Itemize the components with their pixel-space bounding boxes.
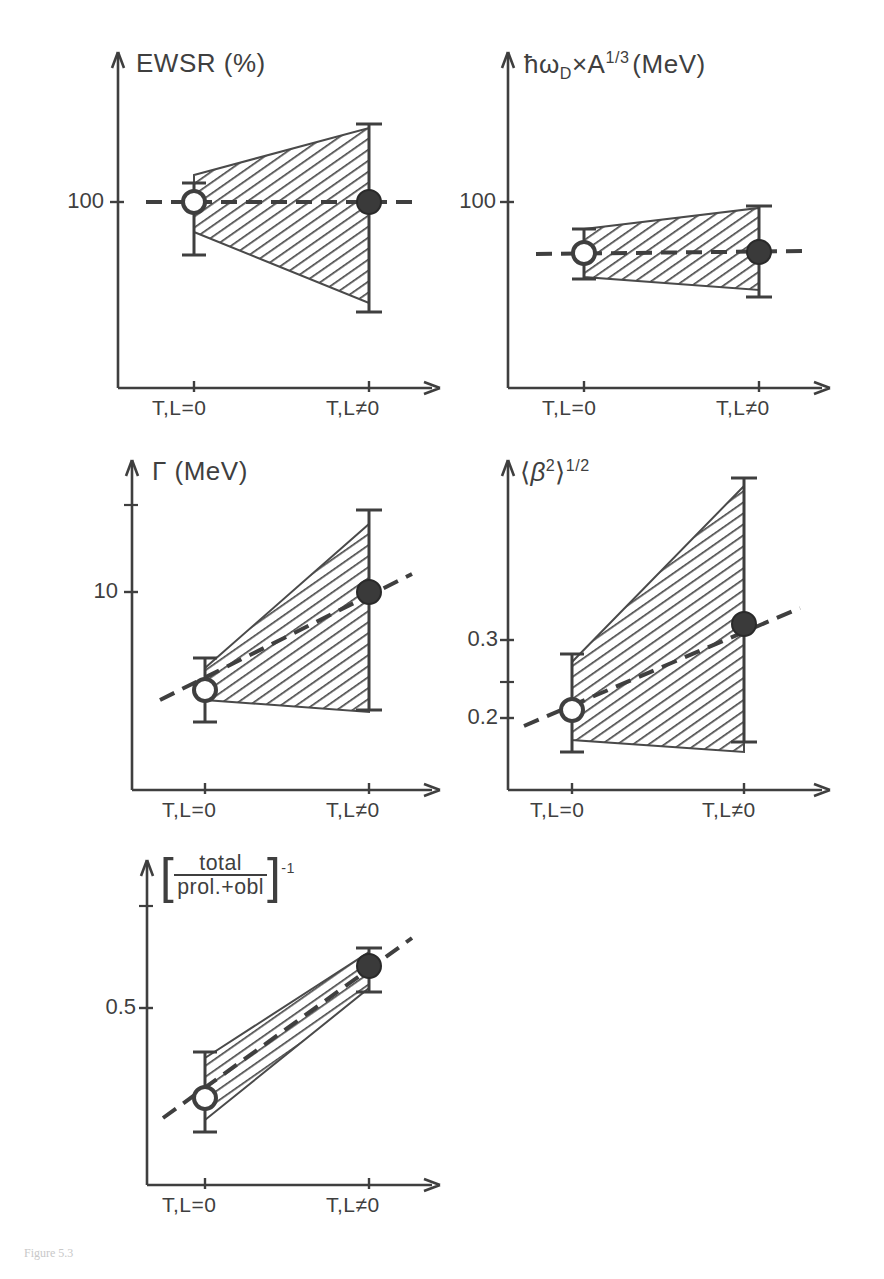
data-point-filled-gamma[interactable] <box>357 580 381 604</box>
uncertainty-band-hw <box>584 208 759 290</box>
bracket-open: [ <box>160 856 174 896</box>
y-tick-label-gamma-10: 10 <box>58 578 118 604</box>
panel-beta2 <box>500 460 830 796</box>
unit-mev: (MeV) <box>632 49 705 79</box>
x-tick-label-beta2-left: T,L=0 <box>530 798 584 822</box>
data-point-filled-ewsr[interactable] <box>357 190 381 214</box>
uncertainty-band-beta2 <box>572 486 744 752</box>
exponent-one-half: 1/2 <box>566 456 590 474</box>
panel-ewsr <box>110 52 440 394</box>
figure-caption: Figure 5.3 <box>24 1246 73 1261</box>
data-point-open-ewsr[interactable] <box>183 191 205 213</box>
beta-symbol: β <box>531 457 546 487</box>
x-tick-label-hw-right: T,L≠0 <box>716 396 770 420</box>
hbar-symbol: ħ <box>524 49 539 79</box>
data-point-open-beta2[interactable] <box>561 699 583 721</box>
y-tick-label-beta2-03: 0.3 <box>432 626 498 652</box>
x-tick-label-tpo-right: T,L≠0 <box>326 1193 380 1217</box>
data-point-open-tpo[interactable] <box>194 1087 216 1109</box>
figure-container: EWSR (%) 100 100 T,L=0 T,L≠0 ħωD×A1/3(Me… <box>0 0 884 1279</box>
x-tick-label-gamma-right: T,L≠0 <box>326 798 380 822</box>
uncertainty-band-ewsr <box>194 128 369 303</box>
uncertainty-band-gamma <box>205 524 369 712</box>
angle-bracket-close: ⟩ <box>555 457 566 487</box>
ratio-fraction: totalprol.+obl <box>174 852 267 899</box>
data-point-filled-hw[interactable] <box>747 240 771 264</box>
axis-label-total-prol-obl: [totalprol.+obl]-1 <box>160 852 295 899</box>
bracket-close: ] <box>267 856 281 896</box>
x-tick-label-hw-left: T,L=0 <box>542 396 596 420</box>
panel-gamma <box>124 460 440 796</box>
mass-number-A: A <box>588 49 606 79</box>
y-tick-label-beta2-02: 0.2 <box>432 704 498 730</box>
x-tick-label-ewsr-left: T,L=0 <box>152 396 206 420</box>
x-tick-label-gamma-left: T,L=0 <box>162 798 216 822</box>
axis-label-gamma: Γ (MeV) <box>152 456 248 487</box>
axis-label-hw-a13: ħωD×A1/3(MeV) <box>524 48 706 83</box>
panel-hw-a13 <box>500 52 830 394</box>
panel-total-prol-obl <box>139 860 440 1191</box>
angle-bracket-open: ⟨ <box>520 457 531 487</box>
fraction-numerator: total <box>174 852 267 876</box>
axis-label-beta2: ⟨β2⟩1/2 <box>520 456 590 488</box>
times-symbol: × <box>572 49 588 79</box>
data-point-filled-tpo[interactable] <box>357 954 381 978</box>
y-tick-label-ewsr-right-100: 100 <box>436 188 496 214</box>
x-tick-label-beta2-right: T,L≠0 <box>702 798 756 822</box>
beta-exponent-two: 2 <box>546 456 555 474</box>
y-tick-label-tpo-05: 0.5 <box>64 994 136 1020</box>
axis-label-ewsr: EWSR (%) <box>136 48 266 79</box>
y-tick-label-ewsr-100: 100 <box>44 188 104 214</box>
exponent-one-third: 1/3 <box>605 48 629 66</box>
data-point-filled-beta2[interactable] <box>732 612 756 636</box>
data-point-open-gamma[interactable] <box>194 679 216 701</box>
x-tick-label-tpo-left: T,L=0 <box>162 1193 216 1217</box>
x-tick-label-ewsr-right: T,L≠0 <box>326 396 380 420</box>
omega-subscript: D <box>560 64 572 82</box>
data-point-open-hw[interactable] <box>573 242 595 264</box>
omega-symbol: ω <box>539 49 560 79</box>
exponent-minus-one: -1 <box>281 860 295 876</box>
uncertainty-band-tpo <box>205 952 369 1120</box>
fraction-denominator: prol.+obl <box>174 876 267 898</box>
